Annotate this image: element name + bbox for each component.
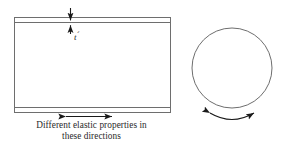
thickness-label: t´ [74, 31, 79, 42]
plate-outline [15, 18, 171, 113]
circumferential-direction-arrow [210, 113, 254, 120]
circumferential-direction-group [210, 113, 254, 120]
plate-side-view-group [15, 18, 171, 113]
composite-plate-diagram: t´ Different elastic properties in these… [0, 0, 283, 151]
cross-section-group [192, 28, 272, 108]
caption-line-2: these directions [0, 131, 183, 142]
caption-line-1: Different elastic properties in [0, 120, 183, 131]
cross-section-circle [192, 28, 272, 108]
thickness-prime-mark: ´ [77, 31, 80, 40]
